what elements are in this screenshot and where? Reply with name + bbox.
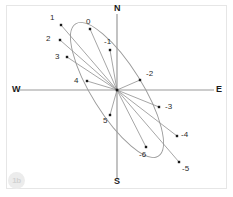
data-point--3	[158, 106, 160, 108]
point-label-2: 2	[46, 35, 50, 43]
ray-to--4	[117, 90, 177, 136]
data-point--2	[139, 79, 141, 81]
data-point--1	[109, 49, 111, 51]
data-point--5	[178, 161, 180, 163]
data-point-5	[109, 114, 111, 116]
point-label--2: -2	[146, 70, 153, 78]
point-label-4: 4	[74, 77, 78, 85]
axis-label-east: E	[216, 85, 222, 94]
point-label--3: -3	[165, 103, 172, 111]
point-label-0: 0	[86, 18, 90, 26]
data-point-3	[66, 56, 68, 58]
axis-label-north: N	[114, 4, 121, 13]
ray-to--3	[117, 90, 159, 107]
data-point-1	[60, 24, 62, 26]
watermark-badge: 1b	[8, 172, 25, 189]
point-label--1: -1	[104, 38, 111, 46]
point-label-1: 1	[50, 14, 54, 22]
data-point-4	[86, 80, 88, 82]
ray-to-2	[60, 40, 117, 90]
point-label--6: -6	[139, 151, 146, 159]
ray-to-1	[61, 25, 117, 90]
point-label-3: 3	[55, 53, 59, 61]
origin-point	[116, 89, 119, 92]
axis-label-south: S	[114, 177, 120, 186]
data-point-2	[59, 39, 61, 41]
radial-rays	[60, 25, 179, 162]
data-point-0	[89, 28, 91, 30]
compass-ellipse-figure: N S E W 10-1234-25-3-4-6-5 1b	[0, 0, 233, 197]
ray-to--1	[110, 50, 117, 90]
ray-to-4	[87, 81, 117, 90]
ray-to--5	[117, 90, 179, 162]
plot-canvas	[0, 0, 233, 197]
ray-to--2	[117, 80, 140, 90]
data-point--6	[145, 146, 147, 148]
data-point--4	[176, 135, 178, 137]
point-label--4: -4	[181, 131, 188, 139]
ray-to-5	[110, 90, 117, 115]
point-label-5: 5	[103, 117, 107, 125]
point-label--5: -5	[182, 165, 189, 173]
axis-label-west: W	[12, 85, 21, 94]
